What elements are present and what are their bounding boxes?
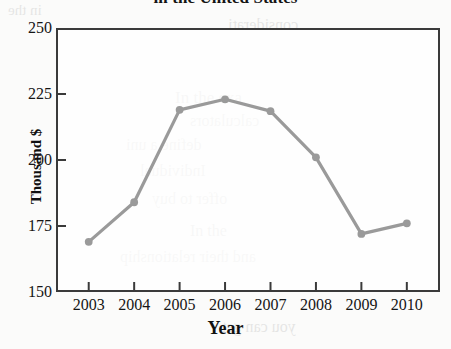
x-tick-label: 2010	[377, 296, 437, 314]
y-tick-label: 150	[4, 283, 52, 301]
x-axis-label: Year	[0, 318, 451, 339]
y-tick-label: 225	[4, 85, 52, 103]
plot-area	[56, 28, 440, 292]
chart-page: in the considerati In the exa calculator…	[0, 0, 451, 349]
chart-title: in the United States	[0, 0, 451, 8]
y-tick-label: 250	[4, 19, 52, 37]
y-axis-label: Thousand $	[28, 107, 45, 227]
